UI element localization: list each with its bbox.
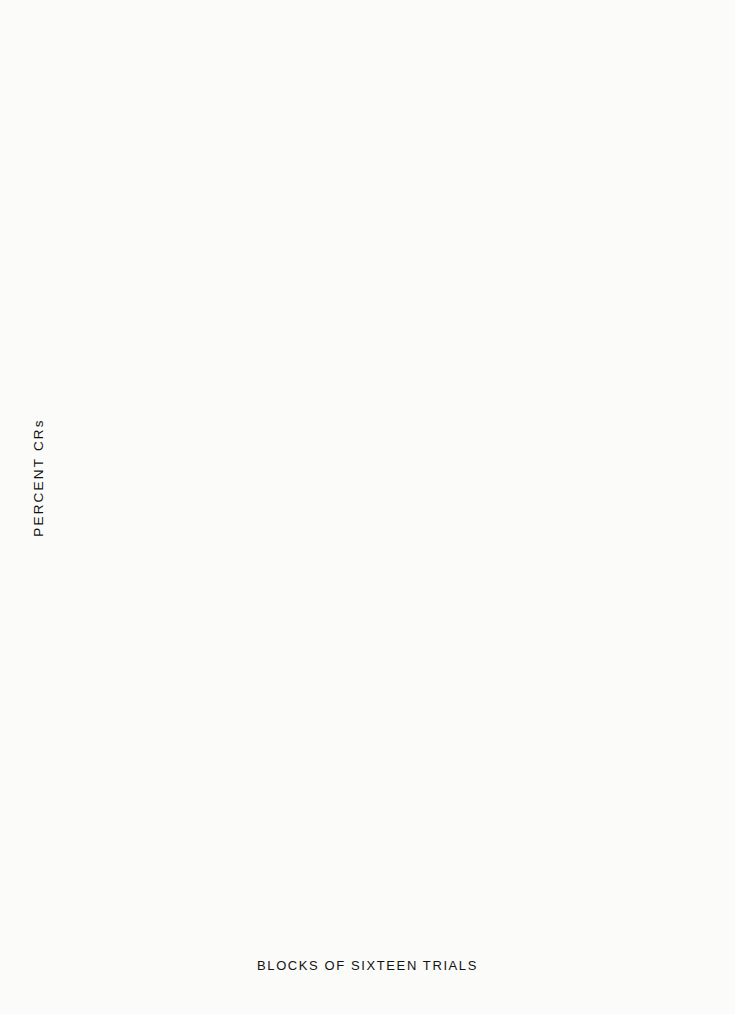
panel-grid xyxy=(0,0,735,1014)
x-axis-label: BLOCKS OF SIXTEEN TRIALS xyxy=(0,958,735,973)
figure-container: PERCENT CRs BLOCKS OF SIXTEEN TRIALS xyxy=(0,0,735,1014)
y-axis-label: PERCENT CRs xyxy=(31,378,46,578)
